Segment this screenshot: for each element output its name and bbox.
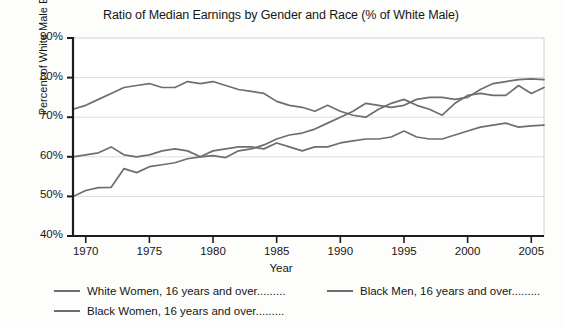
x-tick-label: 2000 (448, 245, 488, 257)
legend-item[interactable]: Black Men, 16 years and over......... (327, 285, 540, 297)
y-tick-label: 70% (25, 109, 63, 121)
legend-line-icon (54, 290, 80, 292)
legend-item[interactable]: Black Women, 16 years and over......... (54, 305, 284, 317)
y-tick-label: 40% (25, 228, 63, 240)
chart-container: Ratio of Median Earnings by Gender and R… (0, 0, 562, 327)
x-tick-label: 1995 (384, 245, 424, 257)
y-tick-label: 80% (25, 70, 63, 82)
legend-line-icon (327, 290, 353, 292)
x-axis-title: Year (0, 262, 562, 274)
legend-item[interactable]: White Women, 16 years and over......... (54, 285, 286, 297)
x-tick-label: 1990 (320, 245, 360, 257)
legend-label: Black Women, 16 years and over......... (87, 305, 284, 317)
x-tick-label: 2005 (511, 245, 551, 257)
chart-legend: White Women, 16 years and over.........B… (0, 283, 562, 327)
legend-label: Black Men, 16 years and over......... (360, 285, 540, 297)
x-tick-label: 1970 (66, 245, 106, 257)
x-tick-label: 1975 (129, 245, 169, 257)
y-tick-label: 50% (25, 188, 63, 200)
legend-line-icon (54, 310, 80, 312)
legend-label: White Women, 16 years and over......... (87, 285, 286, 297)
y-tick-label: 60% (25, 149, 63, 161)
x-tick-label: 1980 (193, 245, 233, 257)
plot-area (0, 0, 562, 250)
y-tick-label: 90% (25, 30, 63, 42)
x-tick-label: 1985 (257, 245, 297, 257)
